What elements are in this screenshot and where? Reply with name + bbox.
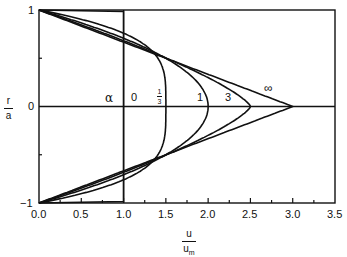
x-tick-05: 0.5 [73,209,88,220]
y-tick-1: 1 [28,5,34,16]
curve-label-infinity: ∞ [264,82,273,94]
x-tick-2: 2.0 [200,209,215,220]
x-tick-0: 0.0 [31,209,46,220]
x-tick-35: 3.5 [327,209,342,220]
fraction-bar [4,108,13,109]
x-label-num: u [186,229,192,239]
curve-label-one-third: 1 3 [157,88,162,105]
y-label-den: a [6,111,12,121]
x-axis-label: u um [182,229,196,256]
y-label-num: r [7,96,10,106]
x-tick-25: 2.5 [242,209,257,220]
x-tick-1: 1.0 [116,209,131,220]
x-label-sub: m [189,249,195,256]
third-num: 1 [158,88,162,95]
alpha-legend-label: α [105,92,113,104]
x-label-den: um [183,244,194,256]
x-tick-15: 1.5 [158,209,173,220]
third-den: 3 [158,98,162,105]
x-tick-3: 3.0 [285,209,300,220]
curve-label-3: 3 [225,92,231,103]
curve-label-1: 1 [197,92,203,103]
y-axis-label: r a [4,96,13,121]
curve-label-0: 0 [131,92,137,103]
fraction-bar [157,96,162,97]
y-tick-0: 0 [28,101,34,112]
fraction-bar [182,241,196,242]
